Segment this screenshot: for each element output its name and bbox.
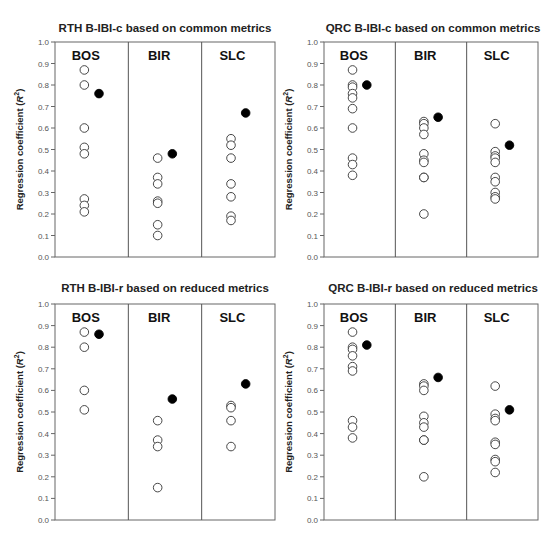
y-tick-label: 0.2 [307,210,319,219]
chart-svg: QRC B-IBI-c based on common metrics0.00.… [280,0,560,272]
open-data-point [420,386,429,395]
open-data-point [491,382,500,391]
chart-title: RTH B-IBI-c based on common metrics [59,22,272,34]
open-data-point [153,199,162,208]
open-data-point [420,473,429,482]
open-data-point [348,94,357,103]
y-tick-label: 0.4 [307,167,319,176]
group-label-bos: BOS [340,48,369,63]
open-data-point [491,416,500,425]
y-tick-label: 0.7 [38,365,50,374]
y-tick-label: 0.3 [38,451,50,460]
y-tick-label: 0.7 [38,103,50,112]
open-data-point [491,119,500,128]
y-tick-label: 0.5 [307,408,319,417]
filled-data-point [363,341,372,350]
y-tick-label: 0.0 [307,516,319,525]
y-tick-label: 0.0 [307,253,319,262]
open-data-point [348,66,357,75]
open-data-point [153,180,162,189]
y-tick-label: 0.1 [38,232,50,241]
group-label-bir: BIR [414,310,437,325]
filled-data-point [95,89,104,98]
open-data-point [153,442,162,451]
y-tick-label: 0.1 [307,232,319,241]
y-tick-label: 0.2 [38,210,50,219]
open-data-point [80,150,89,159]
open-data-point [420,173,429,182]
filled-data-point [363,81,372,90]
chart-panel-rth-common: RTH B-IBI-c based on common metrics0.00.… [0,0,280,272]
y-axis-label: Regression coefficient (R2) [282,351,294,473]
open-data-point [80,406,89,415]
y-tick-label: 0.3 [307,189,319,198]
open-data-point [348,328,357,337]
open-data-point [348,367,357,376]
y-tick-label: 0.4 [307,430,319,439]
open-data-point [227,216,236,225]
open-data-point [80,328,89,337]
filled-data-point [168,395,177,404]
open-data-point [348,160,357,169]
filled-data-point [241,380,250,389]
open-data-point [491,457,500,466]
y-axis-label: Regression coefficient (R2) [13,89,25,211]
y-axis-label: Regression coefficient (R2) [13,351,25,473]
chart-svg: RTH B-IBI-c based on common metrics0.00.… [0,0,280,272]
open-data-point [491,440,500,449]
y-tick-label: 1.0 [307,38,319,47]
y-tick-label: 0.2 [307,473,319,482]
chart-title: QRC B-IBI-c based on common metrics [326,22,541,34]
y-tick-label: 0.7 [307,365,319,374]
y-tick-label: 1.0 [38,300,50,309]
y-tick-label: 1.0 [38,38,50,47]
open-data-point [491,468,500,477]
chart-svg: RTH B-IBI-r based on reduced metrics0.00… [0,272,280,544]
y-tick-label: 0.3 [307,451,319,460]
open-data-point [227,154,236,163]
group-label-bos: BOS [72,48,101,63]
open-data-point [80,81,89,90]
chart-panel-rth-reduced: RTH B-IBI-r based on reduced metrics0.00… [0,272,280,544]
y-tick-label: 0.9 [38,322,50,331]
y-tick-label: 0.4 [38,167,50,176]
filled-data-point [168,150,177,159]
open-data-point [153,154,162,163]
y-tick-label: 0.6 [307,124,319,133]
open-data-point [348,423,357,432]
chart-panel-qrc-reduced: QRC B-IBI-r based on reduced metrics0.00… [280,272,560,544]
open-data-point [348,124,357,133]
chart-title: RTH B-IBI-r based on reduced metrics [61,282,269,294]
open-data-point [420,130,429,139]
open-data-point [153,220,162,229]
open-data-point [348,352,357,361]
filled-data-point [95,330,104,339]
y-tick-label: 1.0 [307,300,319,309]
group-label-slc: SLC [219,310,246,325]
group-label-bir: BIR [148,48,171,63]
group-label-slc: SLC [484,310,511,325]
filled-data-point [505,406,514,415]
y-tick-label: 0.9 [307,60,319,69]
y-tick-label: 0.8 [307,81,319,90]
open-data-point [348,171,357,180]
y-tick-label: 0.8 [38,81,50,90]
filled-data-point [434,113,443,122]
group-label-bir: BIR [414,48,437,63]
y-tick-label: 0.9 [307,322,319,331]
open-data-point [153,483,162,492]
open-data-point [491,158,500,167]
open-data-point [80,386,89,395]
open-data-point [80,208,89,217]
open-data-point [227,403,236,412]
y-tick-label: 0.2 [38,473,50,482]
y-tick-label: 0.6 [38,386,50,395]
open-data-point [80,343,89,352]
group-label-slc: SLC [219,48,246,63]
y-tick-label: 0.1 [38,494,50,503]
y-tick-label: 0.4 [38,430,50,439]
open-data-point [348,434,357,443]
y-tick-label: 0.0 [38,253,50,262]
y-tick-label: 0.6 [38,124,50,133]
y-tick-label: 0.9 [38,60,50,69]
